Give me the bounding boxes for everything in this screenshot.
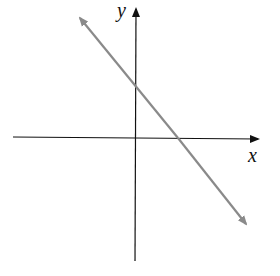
- x-axis-label: x: [247, 144, 257, 166]
- graph-line: [80, 18, 178, 138]
- coordinate-plane: y x: [0, 0, 280, 276]
- graph-line-lower: [178, 138, 246, 224]
- y-axis: [135, 9, 136, 261]
- y-axis-label: y: [115, 0, 126, 22]
